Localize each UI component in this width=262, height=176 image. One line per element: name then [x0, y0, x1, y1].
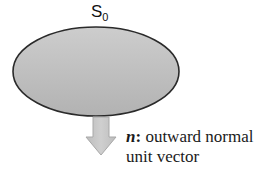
- normal-arrow-icon: [86, 117, 116, 155]
- surface-label: S0: [91, 3, 108, 20]
- caption-line-2: unit vector: [126, 147, 254, 167]
- surface-normal-diagram: S0 n: outward normal unit vector: [0, 0, 262, 176]
- caption-line-1-text: outward normal: [141, 127, 253, 146]
- surface-label-subscript: 0: [102, 11, 108, 23]
- surface-ellipse: [13, 27, 179, 116]
- caption-line-1: n: outward normal: [126, 127, 254, 147]
- normal-vector-caption: n: outward normal unit vector: [126, 127, 254, 167]
- surface-label-main: S: [91, 2, 102, 21]
